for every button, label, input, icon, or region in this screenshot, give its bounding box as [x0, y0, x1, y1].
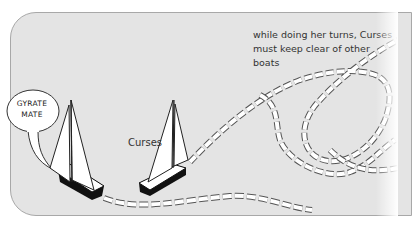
- sailboat-curses: [139, 100, 188, 196]
- speech-bubble-text: GYRATE MATE: [7, 98, 57, 120]
- speech-line-1: GYRATE: [7, 98, 57, 109]
- boat-label-curses: Curses: [128, 137, 162, 148]
- speech-line-2: MATE: [7, 109, 57, 120]
- page-edge-fade: [376, 0, 398, 234]
